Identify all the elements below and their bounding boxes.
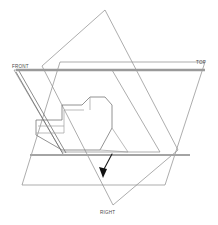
block-right-edge	[112, 128, 128, 152]
front-plane	[14, 70, 160, 154]
front-plane-label: FRONT	[12, 64, 29, 69]
top-plane-label: TOP	[196, 60, 206, 65]
projection-planes-diagram: FRONT TOP RIGHT	[0, 0, 218, 225]
block-inner-step	[38, 110, 84, 126]
front-plane-left-edge-double-2	[19, 71, 66, 153]
leader-arrow	[99, 154, 112, 178]
right-plane-label: RIGHT	[100, 210, 115, 215]
block-outline-top	[36, 97, 112, 150]
front-plane-left-edge-double	[16, 72, 63, 154]
leader-arrow-head	[99, 167, 107, 178]
drawing-canvas: FRONT TOP RIGHT	[0, 0, 218, 225]
